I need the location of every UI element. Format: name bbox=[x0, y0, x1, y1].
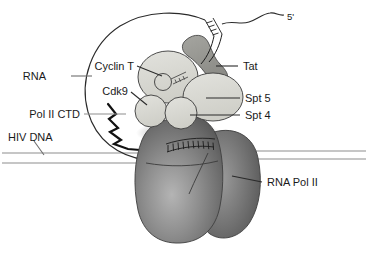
label-cdk9: Cdk9 bbox=[102, 85, 128, 97]
label-pol2-ctd: Pol II CTD bbox=[29, 108, 80, 120]
label-5-prime: 5' bbox=[287, 11, 294, 22]
label-rna: RNA bbox=[23, 70, 47, 82]
pol2-main-lobe bbox=[135, 116, 223, 243]
label-spt4: Spt 4 bbox=[245, 109, 271, 121]
spt4-blob bbox=[165, 97, 197, 129]
diagram-canvas: RNA Pol II CTD HIV DNA Cyclin T Cdk9 Tat… bbox=[0, 0, 368, 260]
label-hiv-dna: HIV DNA bbox=[8, 131, 53, 143]
label-cyclin-t: Cyclin T bbox=[94, 60, 134, 72]
rna-strand-5prime-tail bbox=[222, 13, 284, 24]
rna-pol2-body bbox=[135, 116, 260, 243]
label-spt5: Spt 5 bbox=[245, 92, 271, 104]
label-tat: Tat bbox=[243, 60, 258, 72]
label-rna-pol2: RNA Pol II bbox=[267, 176, 318, 188]
